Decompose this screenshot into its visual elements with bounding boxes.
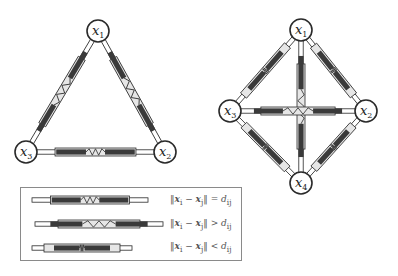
node-x1: x1	[87, 20, 109, 42]
node-x2: x2	[355, 100, 377, 122]
edge-x2-x4	[305, 116, 363, 179]
edge-x1-x3	[28, 38, 97, 146]
node-x2: x2	[154, 141, 176, 163]
edge-x1-x3	[234, 35, 298, 106]
edge-x1-x2	[304, 35, 363, 105]
edge-x1-x2	[99, 38, 163, 145]
node-x3: x3	[219, 100, 241, 122]
edge-x3-x2	[36, 148, 155, 156]
node-x4: x4	[290, 172, 312, 194]
legend-label-rest: ‖xi − xj‖ = dij	[170, 194, 232, 207]
node-x1: x1	[290, 19, 312, 41]
edge-x1-x4	[297, 40, 305, 173]
node-x3: x3	[15, 141, 37, 163]
triangle-graph: x1x2x3	[15, 20, 176, 163]
edge-x3-x4	[234, 115, 297, 178]
legend-label-compressed: ‖xi − xj‖ < dij	[170, 241, 232, 254]
diamond-graph: x1x2x3x4	[219, 19, 377, 194]
legend-label-stretched: ‖xi − xj‖ > dij	[170, 218, 232, 231]
edge-x3-x2	[240, 107, 356, 115]
